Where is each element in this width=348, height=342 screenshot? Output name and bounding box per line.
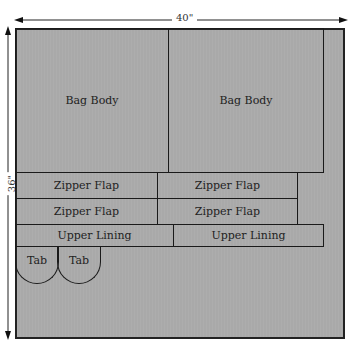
zipper-flap-piece: Zipper Flap [15,198,158,225]
zipper-flap-piece: Zipper Flap [157,198,298,225]
width-dimension-label: 40" [172,12,197,23]
upper-lining-piece: Upper Lining [15,224,174,247]
zipper-flap-piece: Zipper Flap [15,172,158,199]
bag-body-piece: Bag Body [15,28,169,173]
upper-lining-piece: Upper Lining [173,224,324,247]
zipper-flap-piece: Zipper Flap [157,172,298,199]
bag-body-piece: Bag Body [168,28,324,173]
